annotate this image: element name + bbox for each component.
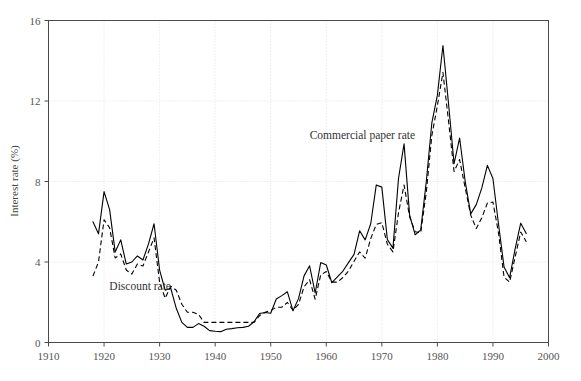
x-tick-label: 1930 — [149, 350, 172, 362]
x-tick-label: 1980 — [426, 350, 449, 362]
x-tick-label: 1920 — [93, 350, 116, 362]
y-tick-label: 8 — [35, 176, 41, 188]
x-tick-label: 2000 — [538, 350, 561, 362]
x-tick-label: 1910 — [38, 350, 61, 362]
x-tick-label: 1970 — [371, 350, 394, 362]
interest-rate-chart: 1910192019301940195019601970198019902000… — [0, 0, 581, 381]
x-tick-label: 1940 — [204, 350, 227, 362]
y-tick-label: 12 — [30, 95, 41, 107]
annotation-label: Commercial paper rate — [310, 129, 415, 142]
y-tick-label: 16 — [30, 15, 42, 27]
y-tick-label: 4 — [35, 256, 41, 268]
x-tick-label: 1990 — [482, 350, 505, 362]
y-axis-title: Interest rate (%) — [8, 145, 21, 217]
annotation-label: Discount rate — [109, 280, 171, 292]
x-tick-label: 1960 — [315, 350, 338, 362]
chart-background — [0, 0, 581, 381]
chart-canvas: 1910192019301940195019601970198019902000… — [0, 0, 581, 381]
x-tick-label: 1950 — [260, 350, 283, 362]
y-tick-label: 0 — [35, 337, 41, 349]
